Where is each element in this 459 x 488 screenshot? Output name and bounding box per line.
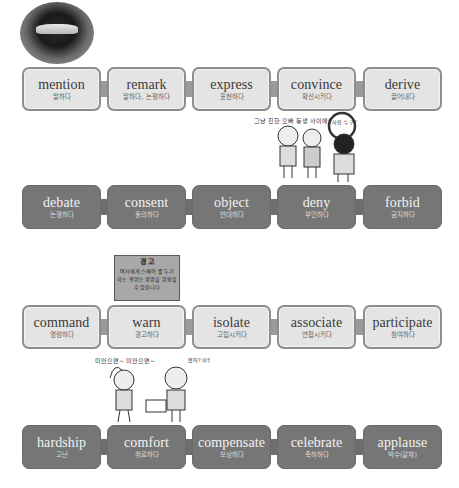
card-korean-meaning: 위로하다: [135, 451, 159, 460]
card-english-word: hardship: [37, 435, 86, 450]
card-english-word: warn: [132, 315, 160, 330]
card-korean-meaning: 연합시키다: [302, 331, 332, 340]
cartoon-comfort-icon: 봤어? 미워..: [100, 356, 210, 426]
card-english-word: participate: [372, 315, 432, 330]
vocab-card-mention[interactable]: mention 말하다: [22, 67, 101, 111]
warning-sign-line: 하는 행위는 생명을 위협할: [115, 275, 179, 283]
warning-sign-title: 경 고: [115, 258, 179, 267]
vocab-card-forbid[interactable]: forbid 금지하다: [363, 185, 442, 229]
card-english-word: convince: [291, 77, 342, 92]
speech-bubble-text: 그사람 누구?: [327, 119, 357, 126]
card-korean-meaning: 동의하다: [135, 211, 159, 220]
card-korean-meaning: 고립시키다: [217, 331, 247, 340]
vocab-row-1: mention 말하다 remark 말하다, 논평하다 express 표현하…: [22, 67, 442, 111]
lips-photo-icon: [20, 2, 94, 64]
card-korean-meaning: 끌어내다: [391, 93, 415, 102]
card-korean-meaning: 경고하다: [135, 331, 159, 340]
card-korean-meaning: 명령하다: [50, 331, 74, 340]
card-korean-meaning: 금지하다: [391, 211, 415, 220]
card-korean-meaning: 박수(갈채): [388, 451, 417, 460]
card-korean-meaning: 확신시키다: [302, 93, 332, 102]
card-korean-meaning: 고난: [56, 451, 68, 460]
teeth-graphic: [36, 24, 78, 34]
card-english-word: celebrate: [291, 435, 342, 450]
warning-sign-illustration: 경 고 여자에게 스페어 를 두기 하는 행위는 생명을 위협할 수 있습니다: [114, 255, 180, 301]
card-english-word: derive: [385, 77, 421, 92]
vocab-card-express[interactable]: express 표현하다: [192, 67, 271, 111]
vocab-card-isolate[interactable]: isolate 고립시키다: [192, 305, 271, 349]
card-korean-meaning: 보상하다: [220, 451, 244, 460]
vocab-card-warn[interactable]: warn 경고하다: [107, 305, 186, 349]
card-english-word: forbid: [385, 195, 420, 210]
vocab-card-remark[interactable]: remark 말하다, 논평하다: [107, 67, 186, 111]
speech-bubble-text: 봤어? 미워..: [188, 357, 210, 364]
vocab-card-derive[interactable]: derive 끌어내다: [363, 67, 442, 111]
vocab-card-consent[interactable]: consent 동의하다: [107, 185, 186, 229]
card-korean-meaning: 부인하다: [305, 211, 329, 220]
card-english-word: consent: [125, 195, 168, 210]
card-korean-meaning: 논쟁하다: [50, 211, 74, 220]
card-korean-meaning: 말하다: [53, 93, 71, 102]
vocab-card-object[interactable]: object 반대하다: [192, 185, 271, 229]
warning-sign-line: 여자에게 스페어 를 두기: [115, 267, 179, 275]
card-english-word: express: [210, 77, 253, 92]
vocab-card-compensate[interactable]: compensate 보상하다: [192, 425, 271, 469]
card-korean-meaning: 참여하다: [391, 331, 415, 340]
vocab-row-3: command 명령하다 warn 경고하다 isolate 고립시키다 ass…: [22, 305, 442, 349]
vocab-card-deny[interactable]: deny 부인하다: [277, 185, 356, 229]
card-korean-meaning: 축하하다: [305, 451, 329, 460]
card-english-word: associate: [291, 315, 342, 330]
card-english-word: command: [34, 315, 90, 330]
vocab-row-2: debate 논쟁하다 consent 동의하다 object 반대하다 den…: [22, 185, 442, 229]
card-english-word: debate: [43, 195, 80, 210]
vocab-card-hardship[interactable]: hardship 고난: [22, 425, 101, 469]
card-english-word: deny: [303, 195, 331, 210]
card-english-word: applause: [378, 435, 428, 450]
card-korean-meaning: 말하다, 논평하다: [123, 93, 169, 102]
card-english-word: compensate: [198, 435, 265, 450]
warning-sign-line: 수 있습니다: [115, 283, 179, 291]
vocab-card-participate[interactable]: participate 참여하다: [363, 305, 442, 349]
vocab-card-comfort[interactable]: comfort 위로하다: [107, 425, 186, 469]
vocab-card-associate[interactable]: associate 연합시키다: [277, 305, 356, 349]
card-english-word: object: [214, 195, 249, 210]
vocab-card-debate[interactable]: debate 논쟁하다: [22, 185, 101, 229]
card-korean-meaning: 표현하다: [220, 93, 244, 102]
card-korean-meaning: 반대하다: [220, 211, 244, 220]
vocab-card-convince[interactable]: convince 확신시키다: [277, 67, 356, 111]
card-english-word: comfort: [124, 435, 169, 450]
vocab-row-4: hardship 고난 comfort 위로하다 compensate 보상하다…: [22, 425, 442, 469]
card-english-word: remark: [126, 77, 166, 92]
card-english-word: mention: [38, 77, 85, 92]
vocab-card-celebrate[interactable]: celebrate 축하하다: [277, 425, 356, 469]
vocab-card-applause[interactable]: applause 박수(갈채): [363, 425, 442, 469]
vocab-card-command[interactable]: command 명령하다: [22, 305, 101, 349]
cartoon-friends-icon: 그사람 누구?: [272, 110, 362, 185]
card-english-word: isolate: [213, 315, 250, 330]
